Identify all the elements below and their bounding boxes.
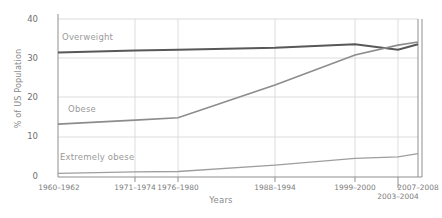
series-line-obese [58,42,418,124]
x-tick-label-1988-1994: 1988–1994 [244,184,306,191]
x-tick-label-2007-2008: 2007–2008 [387,184,442,191]
x-tick-label-1976-1980: 1976–1980 [147,184,209,191]
x-tick-label-1960-1962: 1960–1962 [28,184,90,191]
series-label-extremely-obese: Extremely obese [60,152,134,162]
series-line-overweight [58,44,418,52]
series-label-overweight: Overweight [62,32,113,42]
x-axis-title: Years [0,195,442,205]
obesity-trend-chart: % of US Population 40 30 20 10 0 [0,0,442,218]
series-label-obese: Obese [68,104,96,114]
x-tick-label-1999-2000: 1999–2000 [324,184,386,191]
